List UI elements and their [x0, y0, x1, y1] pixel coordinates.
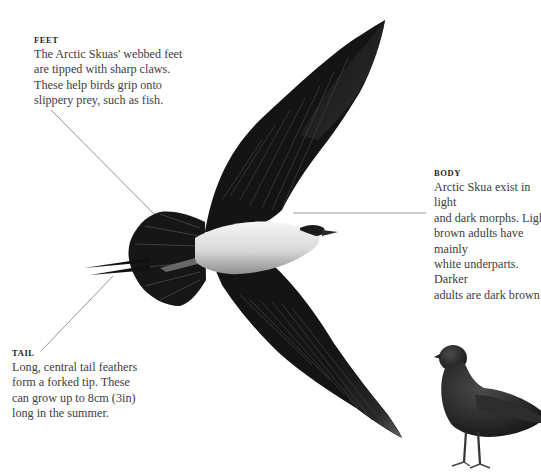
feet-annotation: FEET The Arctic Skuas' webbed feet are t… [34, 34, 204, 109]
body-heading: BODY [434, 167, 541, 179]
body-annotation: BODY Arctic Skua exist in light and dark… [434, 167, 541, 303]
tail-description: Long, central tail feathers form a forke… [12, 360, 182, 422]
feet-leader-line [51, 110, 156, 216]
feet-heading: FEET [34, 34, 204, 46]
standing-skua-illustration [434, 345, 541, 468]
tail-heading: TAIL [12, 347, 182, 359]
tail-leader-line [42, 276, 113, 350]
feet-description: The Arctic Skuas' webbed feet are tipped… [34, 47, 204, 109]
tail-annotation: TAIL Long, central tail feathers form a … [12, 347, 182, 422]
body-description: Arctic Skua exist in light and dark morp… [434, 180, 541, 303]
